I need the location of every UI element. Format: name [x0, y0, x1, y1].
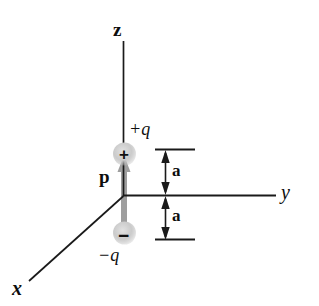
distance-label-lower: a [172, 207, 181, 224]
distance-label-upper: a [172, 162, 181, 179]
y-axis-label: y [281, 182, 290, 202]
dimension-arrow-upper [161, 150, 169, 195]
dipole-moment-label: p [99, 167, 110, 186]
x-axis-label: x [12, 278, 22, 298]
negative-charge-sign: − [118, 226, 129, 245]
x-axis-line [29, 196, 124, 281]
dipole-figure: + − z y x +q −q p a a [0, 0, 319, 306]
negative-charge-label: −q [98, 246, 119, 264]
dimension-arrow-lower [161, 196, 169, 240]
z-axis-label: z [113, 20, 121, 39]
positive-charge-sign: + [119, 146, 129, 163]
figure-canvas [0, 0, 319, 306]
positive-charge-label: +q [129, 120, 150, 138]
